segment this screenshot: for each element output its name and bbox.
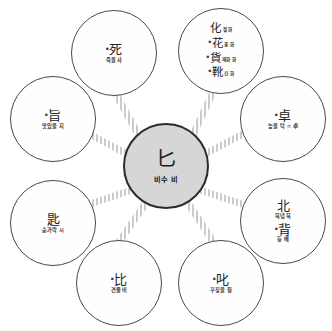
- entry-mark-icon: ▪: [213, 277, 216, 282]
- entry-mark-icon: ▪: [208, 69, 211, 74]
- hanja-ji: 旨: [48, 109, 61, 122]
- entry-si: 匙 숟가락 시: [42, 213, 64, 233]
- entry-mark-icon: ▪: [208, 40, 211, 45]
- node-jil[interactable]: ▪ 叱 꾸짖을 질: [178, 240, 264, 326]
- gloss-buk: 북녘 북: [275, 214, 292, 219]
- node-hwa[interactable]: 化 될 화 ▪ 花 꽃 화 ▪ 貨 재화 화 ▪ 靴 신 화: [178, 8, 264, 94]
- gloss-jil: 꾸짖을 질: [210, 288, 232, 293]
- radial-character-diagram: 匕 비수 비 ▪ 死 죽을 사 化 될 화 ▪ 花 꽃 화: [0, 0, 332, 331]
- glyph-row-si: 匙: [46, 213, 59, 226]
- node-si[interactable]: 匙 숟가락 시: [10, 180, 96, 266]
- glyph-row-buk: 北: [276, 199, 289, 212]
- hanja-hwa-2: 花: [212, 38, 223, 50]
- entry-mark-icon: ▪: [111, 277, 114, 282]
- entry-tak: ▪ 卓 높을 탁 = 卓: [268, 109, 298, 129]
- gloss-sa: 죽을 사: [106, 58, 123, 63]
- glyph-row-hwa-1: 化 될 화: [210, 23, 232, 35]
- glyph-row-tak: ▪ 卓: [275, 109, 291, 122]
- gloss-hwa-4: 신 화: [224, 72, 234, 77]
- node-tak[interactable]: ▪ 卓 높을 탁 = 卓: [240, 76, 326, 162]
- center-glyph-row: 匕: [156, 149, 176, 169]
- glyph-row-hwa-3: ▪ 貨 재화 화: [206, 53, 235, 65]
- hanja-sa: 死: [109, 43, 122, 56]
- gloss-si: 숟가락 시: [42, 228, 64, 233]
- glyph-row-bi: ▪ 比: [111, 273, 127, 286]
- glyph-row-hwa-4: ▪ 靴 신 화: [208, 67, 233, 79]
- entry-buk: 北 북녘 북: [275, 199, 292, 219]
- hanja-hwa-1: 化: [210, 23, 221, 35]
- entry-hwa-1: 化 될 화: [210, 23, 232, 35]
- glyph-row-ji: ▪ 旨: [45, 109, 61, 122]
- center-gloss: 비수 비: [154, 176, 178, 183]
- gloss-ji: 맛있을 지: [42, 124, 64, 129]
- entry-mark-icon: ▪: [45, 113, 48, 118]
- center-hanja: 匕: [156, 149, 176, 169]
- hanja-jil: 叱: [216, 273, 229, 286]
- entry-ji: ▪ 旨 맛있을 지: [42, 109, 64, 129]
- entry-mark-icon: ▪: [106, 47, 109, 52]
- hanja-bi: 比: [114, 273, 127, 286]
- entry-bi: ▪ 比 견줄 비: [111, 273, 128, 293]
- gloss-bae: 등 배: [277, 237, 289, 242]
- glyph-row-bae: ▪ 背: [275, 223, 291, 236]
- node-bi[interactable]: ▪ 比 견줄 비: [76, 240, 162, 326]
- entry-hwa-4: ▪ 靴 신 화: [208, 67, 233, 79]
- center-entry: 匕 비수 비: [154, 149, 178, 183]
- entry-mark-icon: ▪: [206, 55, 209, 60]
- gloss-hwa-3: 재화 화: [222, 58, 236, 63]
- entry-jil: ▪ 叱 꾸짖을 질: [210, 273, 232, 293]
- hanja-hwa-4: 靴: [212, 67, 223, 79]
- hanja-hwa-3: 貨: [210, 53, 221, 65]
- node-sa[interactable]: ▪ 死 죽을 사: [71, 10, 157, 96]
- gloss-tak: 높을 탁 = 卓: [268, 124, 298, 129]
- gloss-hwa-1: 될 화: [223, 28, 233, 33]
- center-node-radical[interactable]: 匕 비수 비: [123, 123, 209, 209]
- gloss-bi: 견줄 비: [111, 288, 128, 293]
- entry-hwa-2: ▪ 花 꽃 화: [208, 38, 233, 50]
- hanja-tak: 卓: [278, 109, 291, 122]
- gloss-hwa-2: 꽃 화: [224, 43, 234, 48]
- node-ji[interactable]: ▪ 旨 맛있을 지: [10, 76, 96, 162]
- entry-mark-icon: ▪: [275, 227, 278, 232]
- entry-mark-icon: ▪: [275, 113, 278, 118]
- hanja-si: 匙: [47, 213, 60, 226]
- glyph-row-hwa-2: ▪ 花 꽃 화: [208, 38, 233, 50]
- entry-sa: ▪ 死 죽을 사: [106, 43, 123, 63]
- glyph-row-sa: ▪ 死: [106, 43, 122, 56]
- node-buk[interactable]: 北 북녘 북 ▪ 背 등 배: [240, 178, 326, 264]
- entry-bae: ▪ 背 등 배: [275, 223, 291, 243]
- hanja-bae: 背: [278, 223, 291, 236]
- glyph-row-jil: ▪ 叱: [213, 273, 229, 286]
- entry-hwa-3: ▪ 貨 재화 화: [206, 53, 235, 65]
- hanja-buk: 北: [277, 199, 290, 212]
